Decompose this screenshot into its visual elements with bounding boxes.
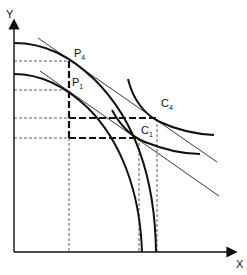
y-axis-label: Y — [6, 8, 14, 20]
point-c4-label: C4 — [161, 97, 173, 111]
thin-dashed-guides — [14, 61, 157, 252]
point-p4-label: P4 — [74, 47, 85, 61]
ppf-outer-curve — [14, 43, 156, 252]
point-p1-label: P1 — [72, 76, 83, 90]
x-axis-label: X — [236, 258, 244, 270]
ppf-diagram: Y X P4 P1 C4 C1 — [0, 0, 247, 275]
ppf-inner-curve — [14, 74, 142, 252]
point-c1-label: C1 — [141, 124, 153, 138]
